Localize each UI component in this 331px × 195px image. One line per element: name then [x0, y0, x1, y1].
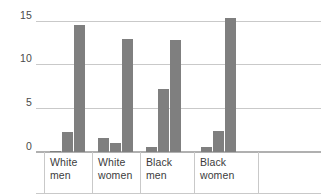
- x-axis-label-black-men-line2: men: [146, 169, 172, 182]
- x-axis-label-white-men: White men: [50, 156, 77, 182]
- y-axis-tick-label-5: 5: [6, 97, 32, 107]
- category-separator-1: [92, 152, 93, 193]
- x-axis-label-black-men: Black men: [146, 156, 172, 182]
- category-separator-2: [140, 152, 141, 193]
- bar-white-men-series-3: [74, 25, 85, 152]
- x-axis-label-white-women: White women: [98, 156, 132, 182]
- x-axis-category-strip: White men White women Black men Black wo…: [36, 152, 321, 195]
- category-strip-bottom-line: [36, 193, 321, 194]
- category-separator-4: [258, 152, 259, 193]
- x-axis-label-black-women-line2: women: [200, 169, 234, 182]
- y-axis-tick-label-0: 0: [6, 141, 32, 151]
- bar-white-women-series-2: [110, 143, 121, 152]
- category-separator-3: [194, 152, 195, 193]
- category-separator-0: [44, 152, 45, 193]
- x-axis-label-black-women-line1: Black: [200, 156, 234, 169]
- bar-black-women-series-3: [225, 18, 236, 152]
- bar-black-women-series-2: [213, 131, 224, 152]
- x-axis-label-black-women: Black women: [200, 156, 234, 182]
- plot-area: [36, 15, 321, 152]
- x-axis-label-white-women-line1: White: [98, 156, 132, 169]
- x-axis-label-white-women-line2: women: [98, 169, 132, 182]
- y-axis-tick-label-15: 15: [6, 10, 32, 20]
- x-axis-label-white-men-line1: White: [50, 156, 77, 169]
- x-axis-label-white-men-line2: men: [50, 169, 77, 182]
- bar-white-women-series-1: [98, 138, 109, 152]
- bar-chart: 15 10 5 0 White m: [0, 0, 331, 195]
- x-axis-label-black-men-line1: Black: [146, 156, 172, 169]
- bar-white-women-series-3: [122, 39, 133, 152]
- x-axis-line: [36, 152, 321, 153]
- bar-black-men-series-2: [158, 89, 169, 152]
- bar-black-men-series-3: [170, 40, 181, 152]
- gridline-15: [36, 21, 321, 22]
- bar-white-men-series-2: [62, 132, 73, 152]
- y-axis-tick-label-10: 10: [6, 53, 32, 63]
